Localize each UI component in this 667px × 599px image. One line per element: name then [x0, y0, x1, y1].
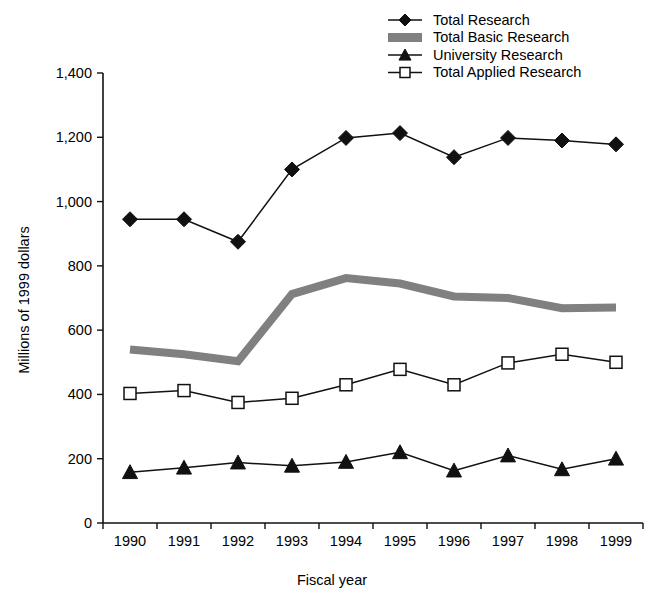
x-tick-label: 1997: [492, 533, 524, 549]
data-point-diamond: [609, 137, 624, 152]
y-tick-label: 0: [84, 515, 92, 531]
y-tick-label: 200: [68, 451, 92, 467]
x-axis-title: Fiscal year: [297, 572, 367, 588]
data-point-triangle: [447, 463, 462, 477]
x-tick-label: 1992: [222, 533, 254, 549]
series-band-path: [130, 278, 616, 361]
chart-series-group: [123, 126, 624, 479]
data-point-square: [502, 357, 514, 369]
data-point-square: [286, 392, 298, 404]
legend-item-total-research: Total Research: [388, 12, 530, 28]
x-tick-label: 1991: [168, 533, 200, 549]
x-tick-label: 1996: [438, 533, 470, 549]
legend-item-total-basic-research: Total Basic Research: [388, 29, 569, 45]
data-point-square: [394, 363, 406, 375]
data-point-diamond: [231, 234, 246, 249]
data-point-square: [178, 385, 190, 397]
legend-label: Total Research: [433, 12, 530, 28]
data-point-triangle: [231, 455, 246, 469]
data-point-square: [400, 68, 410, 78]
legend-swatch-band: [388, 33, 422, 42]
x-tick-label: 1995: [384, 533, 416, 549]
y-axis-title: Millions of 1999 dollars: [16, 226, 32, 374]
data-point-square: [124, 387, 136, 399]
y-tick-label: 1,000: [56, 194, 92, 210]
series-line-path: [130, 354, 616, 402]
legend-label: Total Basic Research: [433, 29, 569, 45]
data-point-square: [448, 379, 460, 391]
series-line-path: [130, 452, 616, 472]
x-tick-label: 1993: [276, 533, 308, 549]
series-total-research: [123, 126, 624, 250]
x-tick-label: 1994: [330, 533, 362, 549]
line-chart-canvas: Total ResearchTotal Basic ResearchUniver…: [0, 0, 667, 599]
data-point-triangle: [501, 448, 516, 462]
chart-figure: Total ResearchTotal Basic ResearchUniver…: [0, 0, 667, 599]
y-tick-label: 600: [68, 322, 92, 338]
y-tick-label: 1,200: [56, 129, 92, 145]
chart-legend: Total ResearchTotal Basic ResearchUniver…: [388, 12, 581, 81]
data-point-diamond: [447, 150, 462, 165]
x-tick-label: 1998: [546, 533, 578, 549]
data-point-triangle: [609, 451, 624, 465]
x-tick-label: 1990: [114, 533, 146, 549]
series-line-path: [130, 133, 616, 242]
data-point-diamond: [177, 212, 192, 227]
y-axis-ticks: 02004006008001,0001,2001,400: [56, 65, 103, 531]
series-university-research: [123, 445, 624, 479]
data-point-diamond: [555, 133, 570, 148]
data-point-square: [232, 396, 244, 408]
data-point-triangle: [393, 445, 408, 459]
y-tick-label: 1,400: [56, 65, 92, 81]
legend-label: Total Applied Research: [433, 64, 581, 80]
data-point-diamond: [285, 162, 300, 177]
data-point-square: [340, 379, 352, 391]
data-point-square: [556, 348, 568, 360]
data-point-diamond: [123, 212, 138, 227]
data-point-square: [610, 356, 622, 368]
x-axis-ticks: 1990199119921993199419951996199719981999: [103, 523, 643, 549]
data-point-diamond: [339, 130, 354, 145]
y-tick-label: 400: [68, 386, 92, 402]
data-point-diamond: [393, 126, 408, 141]
data-point-diamond: [501, 130, 516, 145]
x-tick-label: 1999: [600, 533, 632, 549]
data-point-diamond: [399, 14, 411, 26]
y-tick-label: 800: [68, 258, 92, 274]
legend-label: University Research: [433, 47, 563, 63]
legend-item-university-research: University Research: [388, 47, 563, 63]
series-total-basic-research: [130, 278, 616, 361]
legend-item-total-applied-research: Total Applied Research: [388, 64, 581, 80]
